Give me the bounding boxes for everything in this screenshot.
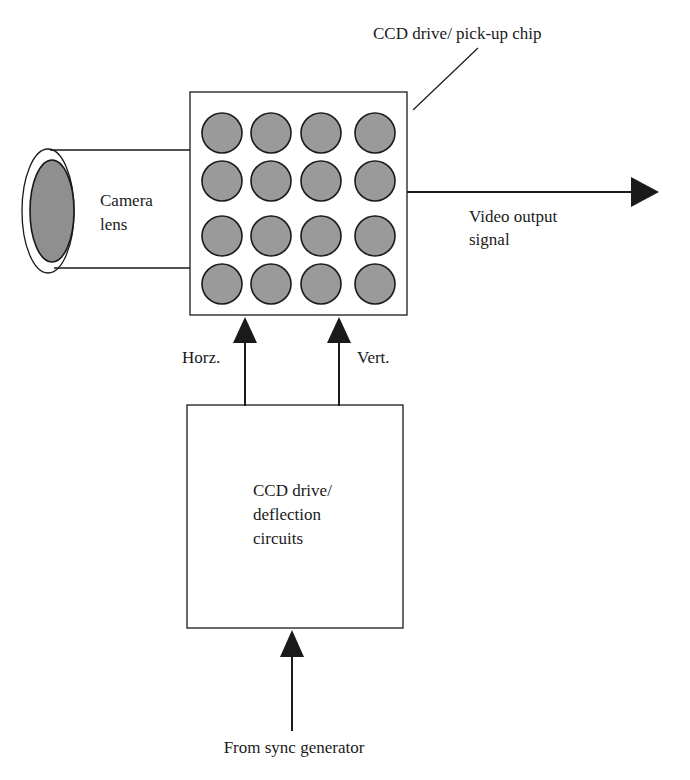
ccd-pixel-icon (355, 161, 395, 201)
camera-lens-label-line1: Camera (100, 191, 153, 210)
chip-title-label: CCD drive/ pick-up chip (373, 24, 542, 43)
ccd-pixel-icon (202, 161, 242, 201)
ccd-pixel-icon (251, 113, 291, 153)
ccd-pixel-icon (355, 264, 395, 304)
camera-lens (22, 149, 190, 273)
vert-label: Vert. (357, 348, 390, 367)
vert-arrowhead-icon (327, 317, 351, 343)
ccd-pixel-icon (301, 113, 341, 153)
lens-glass (30, 160, 74, 262)
horz-arrowhead-icon (233, 317, 257, 343)
ccd-pixel-icon (202, 216, 242, 256)
ccd-camera-diagram: CCD drive/ pick-up chip Camera lens Vide… (0, 0, 690, 780)
ccd-pixel-icon (301, 216, 341, 256)
ccd-pixel-icon (251, 161, 291, 201)
chip-leader-line (413, 48, 478, 110)
ccd-pixel-icon (301, 161, 341, 201)
sync-arrowhead-icon (280, 630, 304, 657)
ccd-pixel-icon (202, 264, 242, 304)
ccd-pixel-icon (251, 216, 291, 256)
sync-source-label: From sync generator (224, 738, 365, 757)
video-output-label-line2: signal (469, 230, 510, 249)
horz-label: Horz. (182, 348, 220, 367)
drive-circuits-label-line2: deflection (253, 505, 321, 524)
ccd-pixel-icon (301, 264, 341, 304)
ccd-pixel-grid (202, 113, 395, 304)
ccd-pixel-icon (251, 264, 291, 304)
drive-circuits-label-line1: CCD drive/ (253, 481, 332, 500)
drive-circuits-label-line3: circuits (253, 529, 303, 548)
camera-lens-label-line2: lens (100, 215, 127, 234)
ccd-pixel-icon (355, 216, 395, 256)
ccd-pixel-icon (355, 113, 395, 153)
ccd-pixel-icon (202, 113, 242, 153)
video-output-label-line1: Video output (469, 207, 557, 226)
video-output-arrowhead-icon (631, 177, 659, 207)
ccd-chip (190, 92, 407, 315)
